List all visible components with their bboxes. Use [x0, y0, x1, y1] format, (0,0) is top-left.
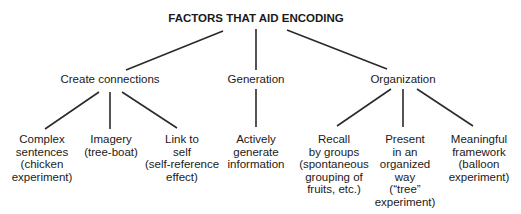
leaf-present-organized: Present in an organized way (“tree” expe…: [375, 133, 436, 209]
leaf-line: Link to: [145, 133, 219, 146]
leaf-line: sentences: [12, 146, 73, 159]
edge-org-framework: [417, 89, 473, 126]
diagram-title: FACTORS THAT AID ENCODING: [168, 12, 343, 25]
edge-org-recall: [337, 89, 391, 126]
leaf-imagery: Imagery (tree-boat): [84, 133, 138, 158]
leaf-line: (balloon: [449, 158, 510, 171]
node-generation: Generation: [228, 73, 285, 86]
connector-lines: [0, 0, 521, 214]
edge-create-link: [122, 92, 177, 128]
edge-root-organization: [287, 30, 387, 69]
leaf-line: (tree-boat): [84, 146, 138, 159]
leaf-line: Actively: [228, 133, 285, 146]
leaf-line: grouping of: [299, 171, 369, 184]
leaf-line: effect): [145, 171, 219, 184]
leaf-line: Imagery: [84, 133, 138, 146]
leaf-line: by groups: [299, 146, 369, 159]
leaf-line: self: [145, 146, 219, 159]
node-create-connections: Create connections: [60, 73, 159, 86]
edge-create-complex: [45, 92, 99, 129]
leaf-line: organized: [375, 158, 436, 171]
leaf-line: generate: [228, 146, 285, 159]
leaf-line: (spontaneous: [299, 158, 369, 171]
node-organization: Organization: [370, 73, 435, 86]
leaf-line: experiment): [449, 171, 510, 184]
leaf-link-to-self: Link to self (self-reference effect): [145, 133, 219, 183]
leaf-line: framework: [449, 146, 510, 159]
leaf-meaningful-framework: Meaningful framework (balloon experiment…: [449, 133, 510, 183]
leaf-line: Recall: [299, 133, 369, 146]
leaf-line: information: [228, 158, 285, 171]
leaf-line: Complex: [12, 133, 73, 146]
leaf-recall-by-groups: Recall by groups (spontaneous grouping o…: [299, 133, 369, 196]
leaf-line: way: [375, 171, 436, 184]
leaf-line: experiment): [375, 196, 436, 209]
leaf-line: in an: [375, 146, 436, 159]
leaf-line: Present: [375, 133, 436, 146]
leaf-line: (chicken: [12, 158, 73, 171]
leaf-line: Meaningful: [449, 133, 510, 146]
leaf-line: fruits, etc.): [299, 183, 369, 196]
leaf-line: (“tree”: [375, 183, 436, 196]
leaf-line: experiment): [12, 171, 73, 184]
leaf-actively-generate: Actively generate information: [228, 133, 285, 171]
leaf-line: (self-reference: [145, 158, 219, 171]
edge-root-create-connections: [126, 31, 223, 70]
leaf-complex-sentences: Complex sentences (chicken experiment): [12, 133, 73, 183]
